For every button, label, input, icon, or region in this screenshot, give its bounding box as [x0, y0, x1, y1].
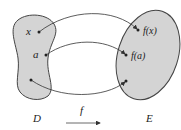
point-fx [137, 29, 140, 32]
label-E: E [145, 112, 153, 124]
label-x: x [25, 25, 31, 37]
point-third [30, 79, 33, 82]
point-a [45, 54, 48, 57]
mapping-arrow-a [46, 42, 125, 55]
point-third-image [125, 80, 128, 83]
label-fa: f(a) [131, 50, 146, 62]
function-mapping-diagram: x a f(x) f(a) D E f [0, 0, 181, 130]
point-x [38, 31, 41, 34]
label-D: D [32, 112, 41, 124]
point-fa [125, 54, 128, 57]
label-f: f [80, 104, 85, 116]
label-a: a [33, 48, 39, 60]
label-fx: f(x) [143, 25, 158, 37]
